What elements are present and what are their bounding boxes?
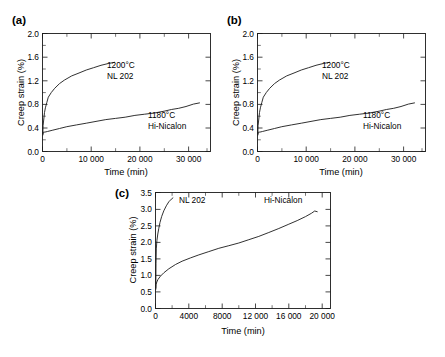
panel-c-xtick-0: 0 — [153, 311, 158, 321]
panel-a-annotation-nl202-name: NL 202 — [107, 71, 134, 81]
panel-a-axes-frame — [43, 34, 211, 152]
panel-b-ytick-0: 0.0 — [242, 147, 254, 157]
panel-a-ytick-1: 0.4 — [27, 123, 39, 133]
panel-c-x-tick-labels: 0 4000 8000 12 000 16 000 20 000 — [153, 311, 335, 321]
panel-a-annotation-hinicalon-temp: 1180°C — [148, 110, 175, 120]
panel-a-y-tick-labels: 0.0 0.4 0.8 1.2 1.6 2.0 — [27, 29, 39, 157]
panel-b-ytick-1: 0.4 — [242, 123, 254, 133]
panel-a-x-ticks — [43, 34, 208, 152]
panel-a-curve-nl202 — [43, 62, 115, 134]
panel-b-y-tick-labels: 0.0 0.4 0.8 1.2 1.6 2.0 — [242, 29, 254, 157]
panel-b-curve-nl202 — [258, 62, 330, 134]
panel-b-ytick-3: 1.2 — [242, 76, 254, 86]
panel-c-xtick-1: 4000 — [180, 311, 199, 321]
panel-c-xtick-3: 12 000 — [243, 311, 269, 321]
panel-c-x-axis-title: Time (min) — [221, 326, 265, 336]
panel-b-x-tick-labels: 0 10 000 20 000 30 000 — [255, 154, 416, 164]
panel-b-y-axis-title: Creep strain (%) — [231, 59, 241, 126]
panel-b-ytick-2: 0.8 — [242, 99, 254, 109]
panel-a-xtick-2: 20 000 — [127, 154, 153, 164]
panel-c-curve-hinicalon — [156, 211, 317, 289]
panel-b-ytick-4: 1.6 — [242, 52, 254, 62]
panel-b-xtick-1: 10 000 — [294, 154, 320, 164]
panel-c-ytick-7: 3.5 — [140, 188, 152, 198]
panel-a-ytick-4: 1.6 — [27, 52, 39, 62]
panel-c-xtick-5: 20 000 — [310, 311, 336, 321]
panel-b-y-ticks — [258, 34, 426, 152]
panel-b-axes-frame — [258, 34, 426, 152]
panel-c-ytick-2: 1.0 — [140, 270, 152, 280]
panel-a-ytick-3: 1.2 — [27, 76, 39, 86]
panel-a-x-axis-title: Time (min) — [104, 167, 148, 177]
panel-b: (b) 0.0 — [222, 0, 445, 180]
panel-b-xtick-3: 30 000 — [391, 154, 417, 164]
panel-a: (a) — [0, 0, 220, 180]
panel-c-x-ticks — [156, 193, 323, 309]
panel-c-y-ticks — [156, 193, 331, 309]
panel-a-y-axis-title: Creep strain (%) — [16, 59, 26, 126]
panel-b-annotation-nl202-temp: 1200°C — [322, 60, 350, 70]
panel-c-annotation-nl202: NL 202 — [179, 195, 206, 205]
panel-c: (c) 0.0 0.5 — [110, 178, 370, 357]
panel-a-plot: 0.0 0.4 0.8 1.2 1.6 2.0 — [0, 0, 220, 180]
panel-a-annotation-nl202-temp: 1200°C — [107, 60, 135, 70]
panel-b-annotation-hinicalon-temp: 1180°C — [363, 110, 390, 120]
panel-a-xtick-3: 30 000 — [176, 154, 202, 164]
panel-b-xtick-0: 0 — [255, 154, 260, 164]
panel-c-ytick-1: 0.5 — [140, 287, 152, 297]
panel-c-ytick-3: 1.5 — [140, 254, 152, 264]
panel-a-ytick-0: 0.0 — [27, 147, 39, 157]
panel-c-ytick-6: 3.0 — [140, 204, 152, 214]
panel-b-plot: 0.0 0.4 0.8 1.2 1.6 2.0 — [222, 0, 445, 180]
panel-a-x-tick-labels: 0 10 000 20 000 30 000 — [40, 154, 201, 164]
panel-c-xtick-4: 16 000 — [276, 311, 302, 321]
panel-b-x-axis-title: Time (min) — [319, 167, 363, 177]
panel-a-annotation-hinicalon-name: Hi-Nicalon — [148, 121, 187, 131]
panel-a-xtick-1: 10 000 — [79, 154, 105, 164]
panel-b-annotation-hinicalon-name: Hi-Nicalon — [363, 121, 402, 131]
panel-b-x-ticks — [258, 34, 423, 152]
panel-a-xtick-0: 0 — [40, 154, 45, 164]
panel-c-ytick-4: 2.0 — [140, 237, 152, 247]
panel-c-y-axis-title: Creep strain (%) — [128, 217, 138, 284]
panel-c-plot: 0.0 0.5 1.0 1.5 2.0 2.5 3.0 3.5 — [110, 178, 370, 357]
panel-c-axes-frame — [156, 193, 331, 309]
panel-c-curve-nl202 — [156, 198, 173, 288]
panel-c-ytick-0: 0.0 — [140, 304, 152, 314]
panel-b-xtick-2: 20 000 — [342, 154, 368, 164]
panel-b-annotation-nl202-name: NL 202 — [322, 71, 349, 81]
panel-c-ytick-5: 2.5 — [140, 221, 152, 231]
panel-a-ytick-2: 0.8 — [27, 99, 39, 109]
panel-a-y-ticks — [43, 34, 211, 152]
panel-a-ytick-5: 2.0 — [27, 29, 39, 39]
creep-strain-figure: (a) — [0, 0, 445, 357]
panel-c-annotation-hinicalon: Hi-Nicalon — [264, 195, 303, 205]
panel-b-ytick-5: 2.0 — [242, 29, 254, 39]
panel-c-y-tick-labels: 0.0 0.5 1.0 1.5 2.0 2.5 3.0 3.5 — [140, 188, 152, 314]
panel-c-xtick-2: 8000 — [213, 311, 232, 321]
